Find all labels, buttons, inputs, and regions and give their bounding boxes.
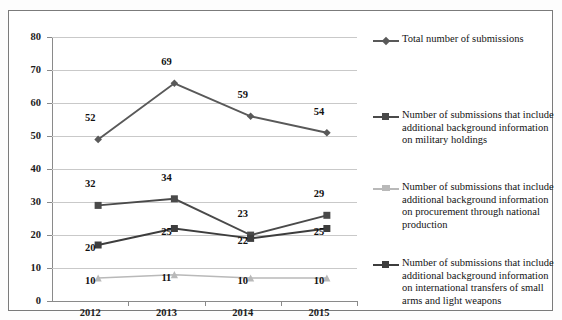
point-label: 20	[67, 242, 113, 253]
point-label: 54	[296, 106, 342, 117]
legend-square-icon	[373, 112, 399, 122]
gridline	[52, 37, 357, 38]
gridline	[52, 136, 357, 137]
x-tick-mark	[281, 301, 282, 306]
x-tick-mark	[128, 301, 129, 306]
x-tick-label: 2012	[60, 307, 120, 318]
y-tick-mark	[47, 70, 52, 71]
point-label: 34	[143, 172, 189, 183]
legend-label: Number of submissions that include addit…	[402, 109, 555, 147]
y-tick-label: 40	[15, 164, 41, 174]
y-tick-mark	[47, 235, 52, 236]
gridline	[52, 70, 357, 71]
y-tick-mark	[47, 268, 52, 269]
point-label: 59	[220, 89, 266, 100]
legend-entry-3[interactable]: Number of submissions that include addit…	[373, 257, 555, 307]
point-label: 25	[296, 226, 342, 237]
point-label: 11	[143, 272, 189, 283]
y-tick-label: 80	[15, 32, 41, 42]
gridline	[52, 268, 357, 269]
point-label: 10	[67, 275, 113, 286]
gridline	[52, 103, 357, 104]
point-label: 69	[143, 56, 189, 67]
x-tick-mark	[357, 301, 358, 306]
y-tick-label: 30	[15, 197, 41, 207]
legend-entry-1[interactable]: Number of submissions that include addit…	[373, 109, 555, 147]
point-label: 52	[67, 112, 113, 123]
chart-legend: Total number of submissionsNumber of sub…	[373, 25, 555, 315]
x-tick-label: 2014	[213, 307, 273, 318]
point-label: 10	[296, 275, 342, 286]
y-tick-label: 50	[15, 131, 41, 141]
legend-marker	[382, 185, 390, 191]
legend-label: Number of submissions that include addit…	[402, 181, 555, 231]
legend-label: Number of submissions that include addit…	[402, 257, 555, 307]
legend-marker	[382, 37, 390, 45]
y-tick-mark	[47, 202, 52, 203]
chart-frame: 80706050403020100 2012201320142015 52695…	[8, 10, 553, 311]
y-tick-label: 20	[15, 230, 41, 240]
point-label: 25	[143, 226, 189, 237]
gridline	[52, 169, 357, 170]
y-tick-mark	[47, 37, 52, 38]
gridline	[52, 202, 357, 203]
y-tick-mark	[47, 169, 52, 170]
point-label: 22	[220, 235, 266, 246]
legend-entry-0[interactable]: Total number of submissions	[373, 33, 555, 46]
legend-marker	[382, 113, 389, 120]
point-label: 29	[296, 188, 342, 199]
chart-figure: 80706050403020100 2012201320142015 52695…	[0, 0, 562, 320]
y-tick-mark	[47, 301, 52, 302]
point-label: 32	[67, 178, 113, 189]
x-tick-label: 2015	[289, 307, 349, 318]
y-tick-label: 0	[15, 296, 41, 306]
y-tick-label: 10	[15, 263, 41, 273]
legend-triangle-icon	[373, 184, 399, 194]
point-label: 23	[220, 208, 266, 219]
y-tick-mark	[47, 136, 52, 137]
y-tick-label: 70	[15, 65, 41, 75]
x-tick-label: 2013	[136, 307, 196, 318]
legend-label: Total number of submissions	[402, 33, 555, 46]
x-tick-mark	[205, 301, 206, 306]
legend-entry-2[interactable]: Number of submissions that include addit…	[373, 181, 555, 231]
y-tick-label: 60	[15, 98, 41, 108]
legend-square-icon	[373, 260, 399, 270]
y-tick-mark	[47, 103, 52, 104]
legend-diamond-icon	[373, 36, 399, 46]
point-label: 10	[220, 275, 266, 286]
legend-marker	[382, 261, 389, 268]
